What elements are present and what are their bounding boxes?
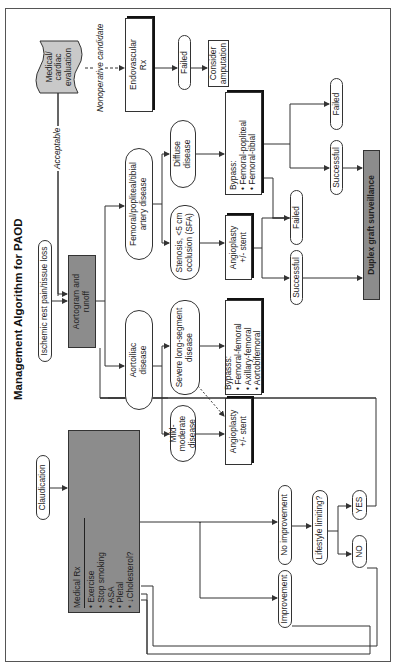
page-title: Management Algorithm for PAOD (12, 219, 24, 400)
node-improvement: Improvement (278, 570, 292, 628)
node-medical-cardiac-evaluation: Medical/ cardiac evaluation (36, 39, 82, 95)
medical-rx-title: Medical Rx (73, 518, 86, 608)
node-failed-endovascular: Failed (178, 35, 191, 90)
node-successful-angioplasty: Successful (290, 250, 303, 305)
node-label: Severe long-segment disease (175, 308, 194, 388)
node-medical-rx: Medical Rx Exercise Stop smoking ASA Ple… (68, 430, 140, 613)
node-label: Duplex graft surveillance (367, 175, 377, 275)
node-label: No improvement (280, 494, 290, 555)
node-aortoiliac-disease: Aortoiliac disease (125, 310, 153, 410)
node-label: Aortoiliac disease (129, 335, 148, 385)
node-label: Consider amputation (209, 42, 228, 86)
node-label: Medical/ cardiac evaluation (45, 47, 74, 87)
node-label: Ischemic rest pain/tissue loss (40, 247, 50, 356)
node-duplex-graft-surveillance: Duplex graft surveillance (363, 150, 380, 300)
node-no: NO (352, 535, 367, 568)
node-angioplasty-aortoiliac: Angioplasty +/- stent (225, 398, 252, 465)
node-label: Angioplasty +/- stent (229, 407, 248, 457)
node-failed-angioplasty: Failed (290, 190, 303, 245)
node-label: Diffuse disease (173, 134, 192, 174)
node-consider-amputation: Consider amputation (208, 40, 229, 87)
node-aortogram: Aortogram and runoff (68, 255, 96, 348)
bypass-list: Femoral-popliteal Femoral-tibial (239, 120, 258, 190)
node-label: Endovascular Rx (129, 40, 148, 90)
node-angioplasty-femoral: Angioplasty +/- stent (225, 215, 252, 280)
node-label: Mild-moderate disease (169, 409, 198, 459)
medical-rx-item: ↓Cholesterol? (126, 518, 136, 608)
medical-rx-list: Exercise Stop smoking ASA Pletal ↓Choles… (87, 518, 135, 608)
node-bypass-femoral: Bypass: Femoral-popliteal Femoral-tibial (225, 92, 262, 195)
node-label: NO (355, 545, 365, 558)
node-label: Failed (180, 51, 190, 74)
node-label: Successful (332, 147, 342, 188)
node-label: Improvement (280, 575, 290, 624)
node-yes: YES (352, 490, 367, 520)
edge-label-acceptable: Acceptable (52, 126, 62, 171)
node-ischemic-rest-pain: Ischemic rest pain/tissue loss (38, 240, 52, 362)
node-endovascular-rx: Endovascular Rx (125, 18, 153, 112)
node-stenosis: Stenosis, <5 cm occlusion (SFA) (170, 205, 200, 280)
node-label: Failed (292, 206, 302, 229)
edge-label-nonoperative: Nonoperative candidate (95, 22, 105, 114)
node-successful-bypass: Successful (330, 140, 343, 195)
node-femoral-popliteal-tibial: Femoral/popliteal/tibial artery disease (125, 148, 153, 260)
bypass-item: Femoral-tibial (248, 120, 258, 190)
node-severe-long-segment: Severe long-segment disease (170, 300, 200, 395)
node-no-improvement: No improvement (278, 485, 292, 565)
node-lifestyle-limiting: Lifestyle limiting? (312, 490, 328, 565)
node-label: Aortogram and runoff (72, 272, 91, 332)
node-failed-bypass: Failed (330, 78, 343, 130)
flowchart-rotated: Management Algorithm for PAOD Ischemic r… (0, 0, 397, 666)
node-label: Lifestyle limiting? (315, 496, 325, 560)
node-label: Claudication (38, 464, 48, 510)
node-label: Femoral/popliteal/tibial artery disease (129, 157, 148, 252)
node-claudication: Claudication (36, 455, 50, 520)
node-label: Stenosis, <5 cm occlusion (SFA) (175, 210, 194, 275)
node-label: Successful (292, 257, 302, 298)
node-label: Failed (332, 93, 342, 116)
node-label: Angioplasty +/- stent (229, 223, 248, 273)
bypass-list: Femoral-femoral Axillary-femoral Aortobi… (234, 323, 263, 390)
node-mild-moderate: Mild-moderate disease (170, 405, 196, 462)
node-diffuse-disease: Diffuse disease (170, 120, 196, 188)
node-bypass-aortoiliac: Bypasss: Femoral-femoral Axillary-femora… (225, 300, 262, 395)
node-label: YES (355, 497, 365, 514)
bypass-item: Aortobifemoral (253, 323, 263, 390)
